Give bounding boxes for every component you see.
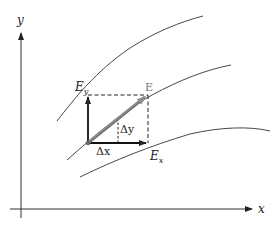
e-label: E <box>145 81 153 94</box>
field-lines <box>57 16 270 177</box>
origin-point <box>86 141 91 146</box>
delta-x-label: Δx <box>96 145 111 158</box>
x-axis-label: x <box>258 202 265 216</box>
delta-y-label: Δy <box>120 123 135 136</box>
e-y-label: Ey <box>74 80 89 96</box>
e-x-label: Ex <box>149 149 164 165</box>
field-line-top <box>57 16 203 121</box>
e-vector <box>89 97 145 142</box>
y-axis-label: y <box>16 13 24 27</box>
field-line-middle <box>67 65 231 160</box>
field-diagram: y x Ey E Ex Δy Δx <box>0 0 275 233</box>
